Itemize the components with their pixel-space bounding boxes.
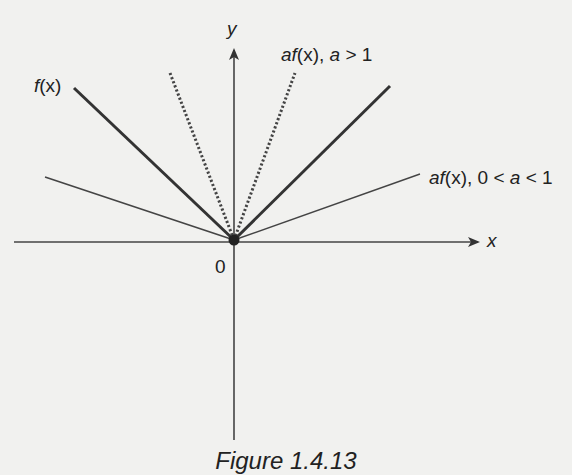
line-f-right (234, 86, 390, 240)
origin-label: 0 (215, 256, 226, 278)
line-f-left (74, 88, 234, 240)
line-a-gt-1-left (170, 73, 234, 240)
label-a: a (281, 44, 292, 65)
label-cond: , (319, 44, 330, 65)
label-cond: , 0 < (467, 167, 510, 188)
y-axis-label: y (227, 18, 237, 40)
label-cond-rest: > 1 (340, 44, 372, 65)
label-arg: (x) (297, 44, 319, 65)
x-axis-label: x (487, 230, 497, 252)
label-a: a (429, 167, 440, 188)
label-cond-a: a (330, 44, 341, 65)
label-f: f(x) (34, 75, 61, 97)
figure-caption: Figure 1.4.13 (0, 447, 572, 475)
line-a-between-left (45, 177, 234, 240)
label-f-arg: (x) (39, 75, 61, 96)
label-arg: (x) (445, 167, 467, 188)
line-a-between-right (234, 174, 420, 240)
label-a-gt-1: af(x), a > 1 (281, 44, 372, 66)
line-a-gt-1-right (234, 73, 295, 240)
label-a-between: af(x), 0 < a < 1 (429, 167, 553, 189)
label-cond-a: a (510, 167, 521, 188)
label-cond-rest: < 1 (520, 167, 552, 188)
origin-point (229, 235, 240, 246)
